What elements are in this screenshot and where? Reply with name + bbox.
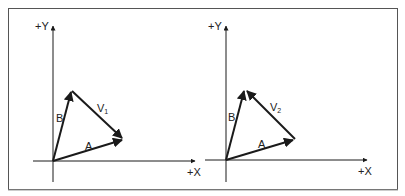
- diagram-frame: [9, 9, 398, 190]
- vector-a-label-right: A: [258, 138, 266, 150]
- vector-b-right: [226, 91, 244, 160]
- vector-v2-right: [247, 91, 295, 139]
- vector-b-left: [53, 92, 71, 161]
- vector-a-label-left: A: [85, 140, 93, 152]
- vector-v2-label-right: V2: [270, 101, 281, 114]
- y-axis-label-left: +Y: [35, 20, 49, 32]
- x-axis-label-right: +X: [358, 165, 372, 177]
- vector-b-label-left: B: [56, 112, 63, 124]
- y-axis-label-right: +Y: [208, 20, 222, 32]
- panel-left: +Y +X B A V1: [33, 20, 201, 182]
- vector-b-label-right: B: [228, 111, 235, 123]
- vector-v1-label-left: V1: [97, 102, 108, 115]
- vector-diagram: +Y +X B A V1 +Y +X B A V2: [0, 0, 405, 196]
- vector-v1-left: [72, 91, 122, 138]
- panel-right: +Y +X B A V2: [205, 20, 372, 182]
- x-axis-label-left: +X: [187, 166, 201, 178]
